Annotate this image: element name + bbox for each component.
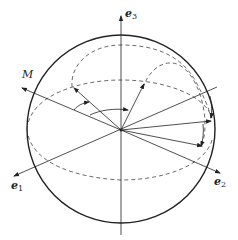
meridian-dashed-arc bbox=[72, 45, 211, 118]
sphere-diagram bbox=[0, 0, 238, 240]
label-e2: e2 bbox=[214, 176, 226, 189]
axis-e2 bbox=[121, 130, 220, 173]
angle-arcs bbox=[74, 96, 212, 146]
label-e3: e3 bbox=[125, 8, 137, 21]
origin bbox=[120, 129, 123, 132]
label-M: M bbox=[22, 69, 33, 80]
axis-M bbox=[22, 88, 121, 130]
axes bbox=[14, 16, 220, 235]
axis-e1 bbox=[14, 87, 217, 176]
label-e1: e1 bbox=[11, 180, 23, 193]
vectors bbox=[74, 84, 211, 146]
